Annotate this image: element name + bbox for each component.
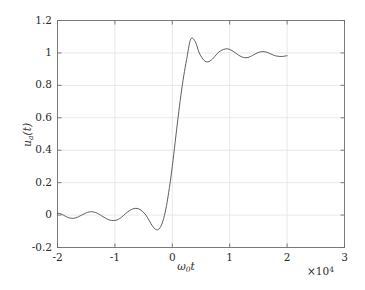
- plot-canvas: [0, 0, 365, 290]
- y-tick-label: 1.2: [8, 14, 52, 26]
- x-axis-exponent-label: ×104: [307, 265, 334, 277]
- y-tick-label: 0: [8, 208, 52, 220]
- plot-box-border: [58, 21, 345, 248]
- x-tick-label: 0: [157, 251, 187, 263]
- x-tick-label: -2: [43, 251, 73, 263]
- y-tick-label: 0.6: [8, 111, 52, 123]
- y-tick-label: 0.2: [8, 176, 52, 188]
- y-tick-label: 0.4: [8, 143, 52, 155]
- x-axis-exponent-text: ×104: [307, 265, 334, 277]
- x-tick-label: 1: [215, 251, 245, 263]
- y-tick-label: 0.8: [8, 78, 52, 90]
- y-tick-label: 1: [8, 46, 52, 58]
- x-tick-label: -1: [100, 251, 130, 263]
- x-tick-label: 2: [272, 251, 302, 263]
- chart-figure: ua(t) ω0t ×104 -0.200.20.40.60.811.2-2-1…: [0, 0, 365, 290]
- x-tick-label: 3: [330, 251, 360, 263]
